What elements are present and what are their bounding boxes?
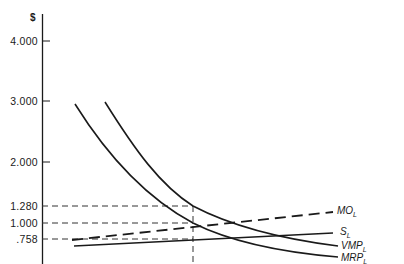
mo-line bbox=[72, 212, 333, 240]
tick-label-1000: 1.000 bbox=[2, 217, 38, 229]
tick-label-758: .758 bbox=[2, 233, 38, 245]
tick-label-4000: 4.000 bbox=[2, 35, 38, 47]
chart-container: $ 4.000 3.000 2.000 1.280 1.000 .758 MOL… bbox=[0, 0, 404, 264]
label-mo: MOL bbox=[337, 205, 357, 218]
label-mrp: MRPL bbox=[341, 252, 367, 264]
y-axis-unit: $ bbox=[30, 12, 36, 23]
chart-plot bbox=[0, 0, 404, 264]
tick-label-3000: 3.000 bbox=[2, 95, 38, 107]
label-s: SL bbox=[340, 226, 351, 239]
vmp-curve bbox=[105, 102, 338, 246]
tick-label-1280: 1.280 bbox=[2, 200, 38, 212]
tick-label-2000: 2.000 bbox=[2, 156, 38, 168]
